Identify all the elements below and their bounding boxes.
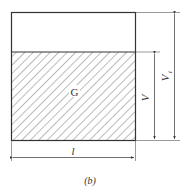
container-diagram: G V V t l (b) (0, 0, 187, 193)
total-height-subscript: t (166, 70, 174, 73)
height-label: V (139, 93, 151, 101)
width-label: l (71, 145, 74, 157)
caption: (b) (84, 175, 96, 187)
region-label: G (71, 86, 79, 98)
total-height-label: V (159, 73, 171, 81)
